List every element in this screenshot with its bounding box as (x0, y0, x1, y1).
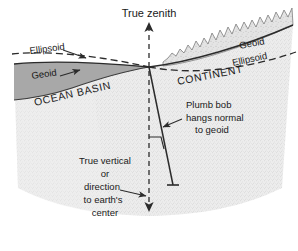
ellipsoid-left-leader (63, 50, 86, 58)
label-plumb-bob-line3: to geoid (195, 124, 229, 135)
label-true-vertical-line5: center (92, 207, 118, 218)
label-true-vertical-line4: to earth's (84, 194, 123, 205)
label-true-zenith: True zenith (122, 7, 177, 19)
label-plumb-bob-line1: Plumb bob (186, 99, 231, 110)
label-true-vertical-line2: or (101, 168, 109, 179)
label-true-vertical-line3: direction (84, 181, 120, 192)
geoid-diagram-figure: True zenith Ellipsoid Geoid OCEAN BASIN … (0, 0, 298, 251)
label-plumb-bob-line2: hangs normal (186, 112, 244, 123)
label-true-vertical-line1: True vertical (79, 155, 131, 166)
diagram-canvas: True zenith Ellipsoid Geoid OCEAN BASIN … (0, 0, 298, 251)
